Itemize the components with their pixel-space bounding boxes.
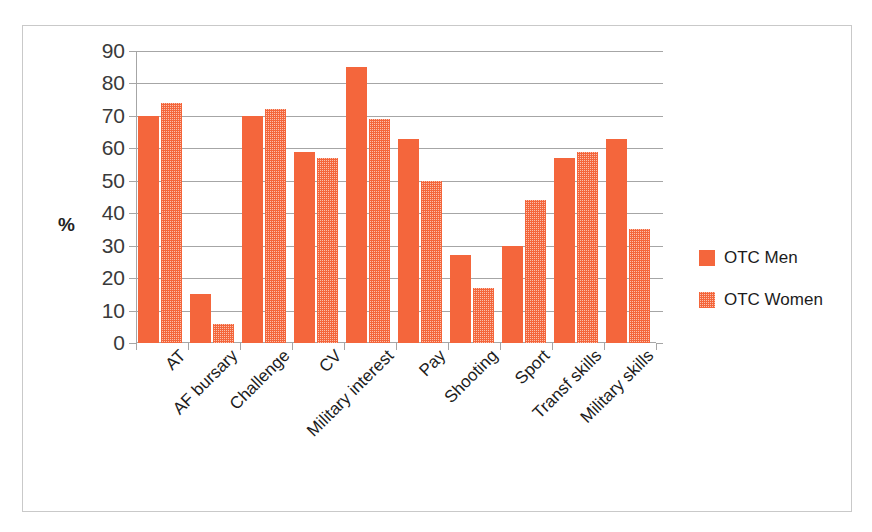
y-axis-tick-right — [656, 311, 663, 312]
bar-women-sport[interactable] — [525, 200, 546, 343]
y-axis-tick-right — [656, 213, 663, 214]
chart-container: % 9080706050403020100 ATAF bursaryChalle… — [22, 25, 852, 512]
y-axis-tick — [129, 116, 136, 117]
legend-item[interactable]: OTC Women — [699, 290, 849, 310]
plot-area: 9080706050403020100 — [136, 51, 656, 343]
y-axis-tick-right — [656, 278, 663, 279]
bar-men-shooting[interactable] — [450, 255, 471, 343]
bar-group — [448, 51, 500, 343]
bar-women-transf-skills[interactable] — [577, 152, 598, 343]
x-axis-label-cv: CV — [315, 346, 346, 377]
bar-group — [292, 51, 344, 343]
x-axis-label-shooting: Shooting — [441, 346, 503, 408]
legend-swatch-icon — [699, 292, 715, 308]
bar-men-challenge[interactable] — [242, 116, 263, 343]
y-axis-tick-right — [656, 246, 663, 247]
bar-men-sport[interactable] — [502, 246, 523, 343]
y-axis-tick-label: 60 — [102, 136, 125, 160]
y-axis-tick-right — [656, 116, 663, 117]
legend-label: OTC Women — [724, 290, 823, 310]
y-axis-tick — [129, 343, 136, 344]
y-axis-tick — [129, 148, 136, 149]
y-axis-tick — [129, 213, 136, 214]
bar-women-shooting[interactable] — [473, 288, 494, 343]
bar-group — [552, 51, 604, 343]
bar-group — [344, 51, 396, 343]
bar-group — [136, 51, 188, 343]
y-axis-tick-label: 30 — [102, 234, 125, 258]
y-axis-tick — [129, 311, 136, 312]
bar-men-cv[interactable] — [294, 152, 315, 343]
y-axis-tick-label: 90 — [102, 39, 125, 63]
bar-women-at[interactable] — [161, 103, 182, 343]
y-axis-tick-right — [656, 51, 663, 52]
y-axis-tick-right — [656, 83, 663, 84]
bar-men-at[interactable] — [138, 116, 159, 343]
bar-group — [604, 51, 656, 343]
bar-men-military-skills[interactable] — [606, 139, 627, 343]
bar-men-pay[interactable] — [398, 139, 419, 343]
bar-women-pay[interactable] — [421, 181, 442, 343]
y-axis-tick-right — [656, 181, 663, 182]
y-axis-tick — [129, 83, 136, 84]
bar-women-military-skills[interactable] — [629, 229, 650, 343]
y-axis-tick-label: 50 — [102, 169, 125, 193]
y-axis-tick-right — [656, 343, 663, 344]
bar-women-cv[interactable] — [317, 158, 338, 343]
y-axis-tick — [129, 51, 136, 52]
x-axis-label-at: AT — [162, 346, 191, 375]
bar-women-challenge[interactable] — [265, 109, 286, 343]
y-axis-tick-label: 80 — [102, 71, 125, 95]
bar-women-af-bursary[interactable] — [213, 324, 234, 343]
y-axis-tick-label: 0 — [113, 331, 125, 355]
bar-women-military-interest[interactable] — [369, 119, 390, 343]
bar-men-military-interest[interactable] — [346, 67, 367, 343]
bar-men-transf-skills[interactable] — [554, 158, 575, 343]
y-axis-tick — [129, 278, 136, 279]
y-axis-tick-label: 70 — [102, 104, 125, 128]
bar-group — [240, 51, 292, 343]
x-axis-label-sport: Sport — [511, 346, 554, 389]
bar-series-group — [136, 51, 656, 343]
x-axis-label-pay: Pay — [415, 346, 450, 381]
bar-group — [396, 51, 448, 343]
legend-swatch-icon — [699, 250, 715, 266]
y-axis-tick-label: 10 — [102, 299, 125, 323]
y-axis-tick — [129, 181, 136, 182]
legend-item[interactable]: OTC Men — [699, 248, 849, 268]
legend-label: OTC Men — [724, 248, 798, 268]
y-axis-title: % — [58, 214, 75, 236]
y-axis-tick — [129, 246, 136, 247]
bar-men-af-bursary[interactable] — [190, 294, 211, 343]
chart-legend: OTC MenOTC Women — [699, 248, 849, 332]
y-axis-tick-right — [656, 148, 663, 149]
bar-group — [188, 51, 240, 343]
bar-group — [500, 51, 552, 343]
x-axis-labels: ATAF bursaryChallengeCVMilitary interest… — [136, 346, 696, 486]
y-axis-tick-label: 20 — [102, 266, 125, 290]
y-axis-tick-label: 40 — [102, 201, 125, 225]
